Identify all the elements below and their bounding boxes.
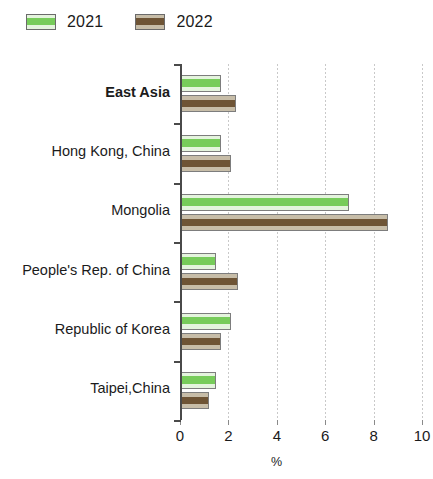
bar-group xyxy=(180,313,422,350)
category-label: Mongolia xyxy=(8,202,180,218)
bar-2021 xyxy=(180,313,231,330)
y-tick-mark xyxy=(174,361,181,363)
legend-label-2021: 2021 xyxy=(67,13,103,31)
y-tick-mark xyxy=(174,64,181,66)
bar-2022 xyxy=(180,333,221,350)
x-tick-label-4: 4 xyxy=(273,427,281,444)
bar-2021 xyxy=(180,75,221,92)
x-tick-mark-6 xyxy=(325,420,326,425)
bar-2021 xyxy=(180,135,221,152)
y-tick-mark xyxy=(174,183,181,185)
bar-group xyxy=(180,75,422,112)
bar-2021 xyxy=(180,194,349,211)
category-label: Republic of Korea xyxy=(8,321,180,337)
legend-item-2021: 2021 xyxy=(26,13,103,31)
y-tick-mark xyxy=(174,123,181,125)
bar-2022 xyxy=(180,95,236,112)
gridline-8 xyxy=(374,64,375,420)
plot-area xyxy=(180,64,422,420)
bar-group xyxy=(180,135,422,172)
gridline-4 xyxy=(277,64,278,420)
gridline-10 xyxy=(422,64,423,420)
category-label: People's Rep. of China xyxy=(8,262,180,278)
bar-2021 xyxy=(180,372,216,389)
bar-group xyxy=(180,372,422,409)
y-tick-mark xyxy=(174,301,181,303)
x-tick-mark-10 xyxy=(422,420,423,425)
chart-legend: 2021 2022 xyxy=(0,0,433,44)
x-tick-label-10: 10 xyxy=(414,427,431,444)
x-tick-mark-4 xyxy=(277,420,278,425)
bar-group xyxy=(180,253,422,290)
x-axis-line xyxy=(180,420,422,421)
legend-item-2022: 2022 xyxy=(135,13,212,31)
bar-2022 xyxy=(180,392,209,409)
x-tick-label-0: 0 xyxy=(176,427,184,444)
bar-2021 xyxy=(180,253,216,270)
gridline-6 xyxy=(325,64,326,420)
y-tick-mark xyxy=(174,242,181,244)
legend-label-2022: 2022 xyxy=(176,13,212,31)
x-tick-mark-2 xyxy=(228,420,229,425)
category-label: Hong Kong, China xyxy=(8,143,180,159)
bar-2022 xyxy=(180,214,388,231)
x-tick-mark-8 xyxy=(374,420,375,425)
category-label: East Asia xyxy=(8,84,180,100)
y-tick-mark xyxy=(174,420,181,422)
x-axis-title: % xyxy=(0,455,433,469)
x-tick-label-2: 2 xyxy=(224,427,232,444)
category-label-column: East AsiaHong Kong, ChinaMongoliaPeople'… xyxy=(0,64,180,420)
legend-swatch-2022 xyxy=(135,14,165,30)
x-tick-label-6: 6 xyxy=(321,427,329,444)
gridline-2 xyxy=(228,64,229,420)
x-tick-label-8: 8 xyxy=(369,427,377,444)
legend-swatch-2021 xyxy=(26,14,56,30)
category-label: Taipei,China xyxy=(8,380,180,396)
bar-2022 xyxy=(180,155,231,172)
bar-2022 xyxy=(180,273,238,290)
bar-group xyxy=(180,194,422,231)
